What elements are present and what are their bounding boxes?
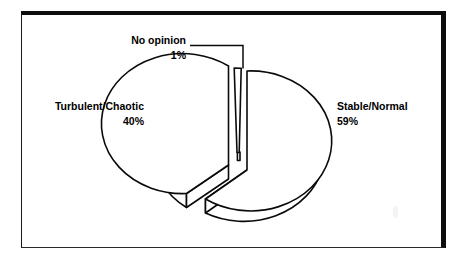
slice-label-turbulent-value: 40%: [32, 114, 144, 129]
slice-label-turbulent: Turbulent/Chaotic 40%: [32, 99, 144, 129]
slice-label-turbulent-name: Turbulent/Chaotic: [55, 100, 144, 112]
slice-label-stable-value: 59%: [337, 114, 457, 129]
chart-frame: [21, 11, 446, 248]
slice-label-stable: Stable/Normal 59%: [337, 99, 457, 129]
slice-label-no-opinion-value: 1%: [106, 48, 186, 63]
slice-label-no-opinion: No opinion 1%: [106, 33, 186, 63]
scan-artifact: [393, 206, 398, 218]
slice-label-no-opinion-name: No opinion: [131, 34, 186, 46]
screenshot-root: Turbulent/Chaotic 40% Stable/Normal 59% …: [0, 0, 467, 264]
slice-label-stable-name: Stable/Normal: [337, 100, 408, 112]
